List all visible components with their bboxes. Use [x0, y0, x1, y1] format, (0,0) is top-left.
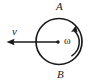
point-label-b: B [57, 69, 64, 80]
left-arrow-icon [7, 39, 15, 45]
figure-canvas [0, 0, 100, 83]
center-dot-icon [56, 40, 59, 43]
curved-arrow-counterclockwise-icon [72, 31, 79, 56]
rolling-wheel-figure: A B v ω [0, 0, 100, 83]
point-label-a: A [56, 1, 63, 12]
velocity-label: v [12, 26, 17, 37]
angular-velocity-label: ω [64, 36, 71, 46]
